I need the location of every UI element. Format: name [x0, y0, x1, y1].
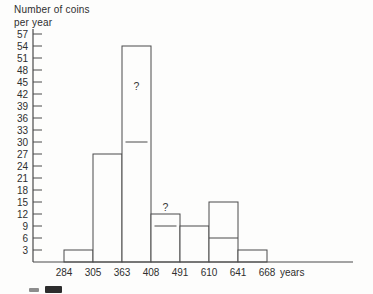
histogram-bar-3 [151, 214, 180, 262]
y-tick-label: 57 [17, 29, 29, 40]
scanned-chart-page: Number of coins per year ??3691215182124… [0, 0, 373, 294]
y-tick-label: 24 [17, 161, 29, 172]
y-tick-label: 3 [22, 245, 28, 256]
y-tick-label: 30 [17, 137, 29, 148]
question-mark-annotation: ? [134, 80, 140, 92]
histogram-bar-0 [64, 250, 93, 262]
x-axis-unit-label: years [280, 267, 304, 278]
histogram-bar-2 [122, 46, 151, 262]
y-tick-label: 45 [17, 77, 29, 88]
x-tick-label: 668 [259, 267, 276, 278]
crop-mark-2 [45, 286, 62, 293]
histogram-bar-5 [209, 202, 238, 262]
x-tick-label: 641 [230, 267, 247, 278]
y-tick-label: 42 [17, 89, 29, 100]
x-tick-label: 305 [85, 267, 102, 278]
y-tick-label: 36 [17, 113, 29, 124]
histogram-bar-4 [180, 226, 209, 262]
y-tick-label: 18 [17, 185, 29, 196]
page-crop-artifact [29, 286, 73, 294]
y-tick-label: 33 [17, 125, 29, 136]
y-tick-label: 9 [22, 221, 28, 232]
x-tick-label: 363 [114, 267, 131, 278]
x-tick-label: 610 [201, 267, 218, 278]
y-tick-label: 27 [17, 149, 29, 160]
y-tick-label: 54 [17, 41, 29, 52]
y-tick-label: 48 [17, 65, 29, 76]
x-tick-label: 408 [143, 267, 160, 278]
y-tick-label: 12 [17, 209, 29, 220]
x-tick-label: 491 [172, 267, 189, 278]
x-tick-label: 284 [56, 267, 73, 278]
y-tick-label: 51 [17, 53, 29, 64]
histogram-bar-1 [93, 154, 122, 262]
question-mark-annotation: ? [163, 201, 169, 213]
y-tick-label: 15 [17, 197, 29, 208]
y-tick-label: 21 [17, 173, 29, 184]
y-tick-label: 6 [22, 233, 28, 244]
crop-mark-1 [29, 288, 39, 292]
histogram-bar-6 [238, 250, 267, 262]
y-tick-label: 39 [17, 101, 29, 112]
histogram-svg: ??36912151821242730333639424548515457284… [0, 0, 373, 294]
